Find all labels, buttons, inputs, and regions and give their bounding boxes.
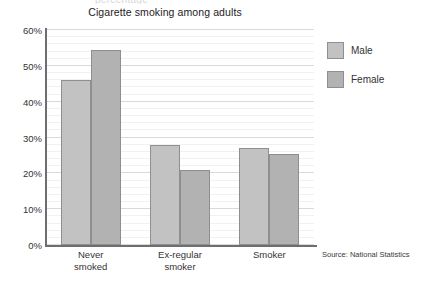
legend-swatch-male — [327, 42, 344, 59]
y-axis-tick-label: 20% — [2, 168, 42, 179]
x-axis-category-label: Ex-regularsmoker — [135, 249, 224, 273]
legend-label-male: Male — [351, 45, 373, 56]
x-axis-category-label-line: smoked — [46, 261, 135, 273]
bar-female-smoker[interactable] — [269, 154, 299, 245]
x-axis-category-label: Smoker — [225, 249, 314, 261]
y-axis-tick-labels: 0%10%20%30%40%50%60% — [0, 30, 42, 245]
x-axis-category-label-line: smoker — [135, 261, 224, 273]
y-axis-tick-label: 40% — [2, 96, 42, 107]
y-axis-tick-label: 0% — [2, 240, 42, 251]
source-note: Source: National Statistics — [322, 250, 410, 259]
bar-male-never-smoked[interactable] — [61, 80, 91, 245]
y-axis-tick-label: 50% — [2, 60, 42, 71]
chart-title: Cigarette smoking among adults — [0, 6, 330, 18]
bar-female-ex-regular-smoker[interactable] — [180, 170, 210, 245]
legend-label-female: Female — [351, 74, 384, 85]
x-axis-category-label-line: Ex-regular — [135, 249, 224, 261]
x-axis-line — [45, 245, 317, 247]
legend-item-male[interactable]: Male — [327, 42, 384, 59]
chart-legend: MaleFemale — [327, 42, 384, 88]
bar-group — [135, 30, 224, 245]
y-axis-tick-label: 60% — [2, 25, 42, 36]
legend-swatch-female — [327, 71, 344, 88]
y-axis-line — [45, 28, 47, 247]
plot-area — [46, 30, 314, 245]
clipped-header-text: percentage — [95, 0, 295, 4]
bar-male-smoker[interactable] — [239, 148, 269, 245]
x-axis-category-labels: NeversmokedEx-regularsmokerSmoker — [46, 249, 314, 289]
bar-female-never-smoked[interactable] — [91, 50, 121, 245]
bar-male-ex-regular-smoker[interactable] — [150, 145, 180, 245]
x-axis-category-label-line: Smoker — [225, 249, 314, 261]
y-axis-tick-label: 30% — [2, 132, 42, 143]
x-axis-category-label: Neversmoked — [46, 249, 135, 273]
bar-group — [225, 30, 314, 245]
y-axis-tick-label: 10% — [2, 204, 42, 215]
bar-group — [46, 30, 135, 245]
legend-item-female[interactable]: Female — [327, 71, 384, 88]
x-axis-category-label-line: Never — [46, 249, 135, 261]
